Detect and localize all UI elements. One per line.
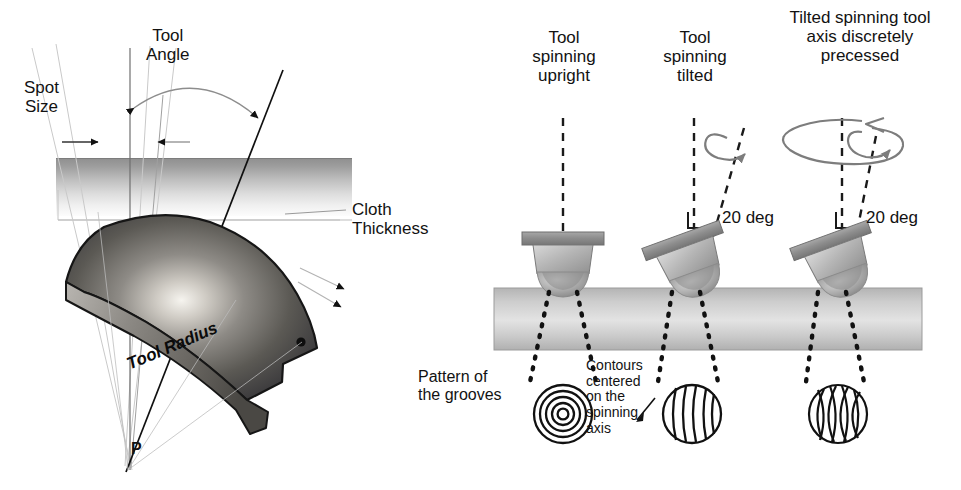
pattern-caption: Pattern of the grooves bbox=[418, 368, 502, 404]
figure-root: Tool Angle Spot Size Cloth Thickness Too… bbox=[0, 0, 961, 490]
crosshatch-pattern bbox=[809, 385, 867, 443]
tool-precessed-group bbox=[783, 118, 903, 443]
column-heading-tilted: Tool spinning tilted bbox=[644, 28, 746, 85]
contours-note: Contours centered on the spinning axis bbox=[586, 358, 643, 436]
upright-tool-plate bbox=[522, 232, 604, 245]
upright-tool-body bbox=[533, 245, 593, 274]
angle-label-tilted: 20 deg bbox=[722, 208, 774, 227]
column-heading-upright: Tool spinning upright bbox=[513, 28, 615, 85]
workpiece-bar bbox=[494, 288, 922, 350]
parallel-arcs-pattern bbox=[663, 385, 721, 443]
tool-tilted-group bbox=[642, 118, 745, 443]
right-diagram-graphics bbox=[0, 0, 961, 490]
concentric-rings-pattern bbox=[534, 385, 592, 443]
column-heading-precessed: Tilted spinning tool axis discretely pre… bbox=[764, 8, 956, 65]
precessed-spin-arrow bbox=[848, 132, 890, 158]
angle-label-precessed: 20 deg bbox=[866, 208, 918, 227]
